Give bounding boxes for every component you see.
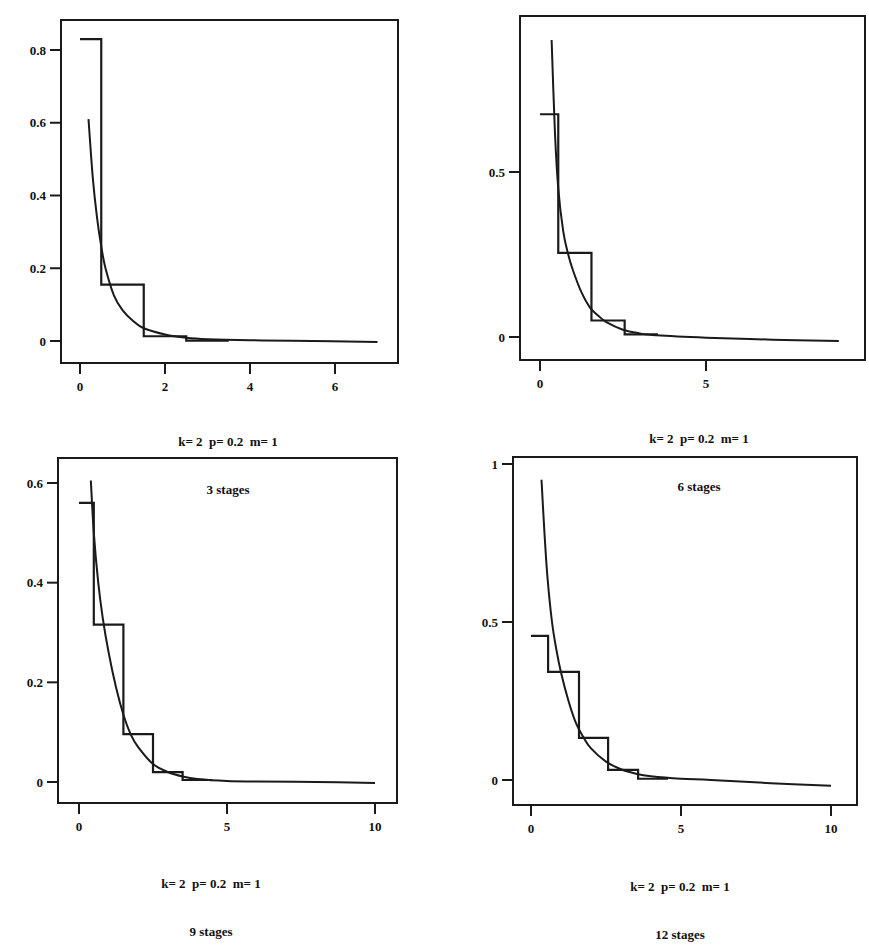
- y-tick-label: 0.5: [482, 615, 499, 630]
- caption-stages: 12 stages: [580, 927, 780, 943]
- chart-caption: k= 2 p= 0.2 m= 1 12 stages: [580, 847, 780, 946]
- plot-frame: [513, 457, 857, 805]
- caption-parameters: k= 2 p= 0.2 m= 1: [580, 879, 780, 895]
- x-tick-label: 0: [528, 821, 535, 836]
- caption-stages: 9 stages: [111, 924, 311, 940]
- x-tick-label: 5: [678, 821, 685, 836]
- x-tick-label: 10: [825, 821, 838, 836]
- y-tick-label: 1: [492, 457, 499, 472]
- y-tick-label: 0: [492, 773, 499, 788]
- density-curve: [542, 480, 832, 786]
